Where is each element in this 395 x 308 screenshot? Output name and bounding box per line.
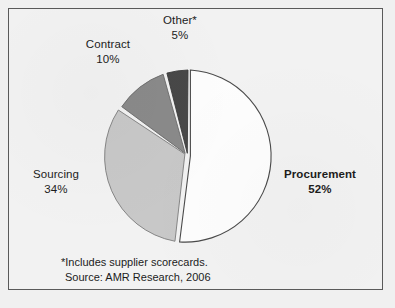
- pie-chart-svg: [95, 63, 281, 249]
- pie-chart: Other* 5% Contract 10% Sourcing 34% Proc…: [9, 9, 382, 289]
- footnote-source: Source: AMR Research, 2006: [61, 270, 331, 285]
- pie-label-contract-name: Contract: [65, 37, 151, 52]
- pie-label-other-name: Other*: [137, 13, 223, 28]
- pie-label-contract-value: 10%: [65, 52, 151, 67]
- caption-cutoff: [8, 295, 383, 308]
- pie-label-contract: Contract 10%: [65, 37, 151, 66]
- pie-label-procurement: Procurement 52%: [261, 167, 379, 196]
- pie-label-sourcing-name: Sourcing: [15, 167, 97, 182]
- pie-label-procurement-name: Procurement: [261, 167, 379, 182]
- pie-label-sourcing: Sourcing 34%: [15, 167, 97, 196]
- figure-frame: Other* 5% Contract 10% Sourcing 34% Proc…: [8, 8, 383, 290]
- pie-slice-procurement[interactable]: [180, 70, 272, 242]
- footnote-asterisk-note: *Includes supplier scorecards.: [61, 255, 331, 270]
- pie-label-sourcing-value: 34%: [15, 182, 97, 197]
- pie-label-procurement-value: 52%: [261, 182, 379, 197]
- figure-footnote: *Includes supplier scorecards. Source: A…: [61, 255, 331, 284]
